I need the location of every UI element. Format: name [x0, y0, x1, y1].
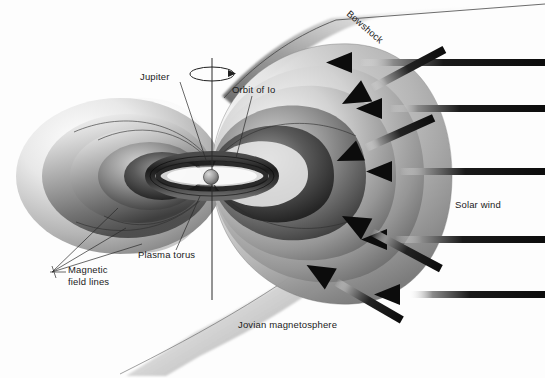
- solar-wind-arrow: [374, 284, 545, 305]
- rotation-direction-arrow: [190, 67, 236, 81]
- label-jupiter: Jupiter: [140, 71, 170, 83]
- label-plasma-torus: Plasma torus: [138, 249, 195, 261]
- label-solar-wind: Solar wind: [455, 199, 501, 211]
- jupiter-magnetosphere-figure: Jupiter Orbit of Io Plasma torus Magneti…: [0, 0, 545, 378]
- label-jovian-magnetosphere: Jovian magnetosphere: [238, 319, 337, 331]
- label-orbit-of-io: Orbit of Io: [232, 84, 275, 96]
- jupiter-sphere: [204, 170, 219, 185]
- label-magnetic-field-lines-1: Magnetic: [68, 264, 108, 276]
- label-magnetic-field-lines-2: field lines: [68, 276, 109, 288]
